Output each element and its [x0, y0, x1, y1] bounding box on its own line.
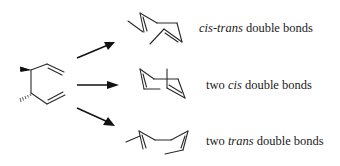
label-suffix: double bonds [243, 21, 313, 35]
product-3-label: two trans double bonds [206, 135, 324, 148]
label-suffix: double bonds [254, 134, 324, 148]
label-suffix: double bonds [242, 78, 312, 92]
label-italic: trans [228, 134, 254, 148]
product-1-molecule [128, 13, 182, 44]
hash-bond [20, 94, 31, 102]
arrow-to-product-2 [77, 81, 119, 89]
arrow-to-product-3 [77, 108, 115, 126]
label-prefix: two [206, 78, 228, 92]
label-italic: cis-trans [199, 21, 243, 35]
label-prefix: two [206, 134, 228, 148]
product-3-molecule [126, 131, 188, 154]
product-2-label: two cis double bonds [206, 79, 312, 92]
reactant-molecule [20, 64, 65, 104]
product-2-molecule [140, 69, 185, 98]
label-italic: cis [228, 78, 242, 92]
arrow-to-product-1 [77, 42, 115, 58]
product-1-label: cis-trans double bonds [199, 22, 313, 35]
